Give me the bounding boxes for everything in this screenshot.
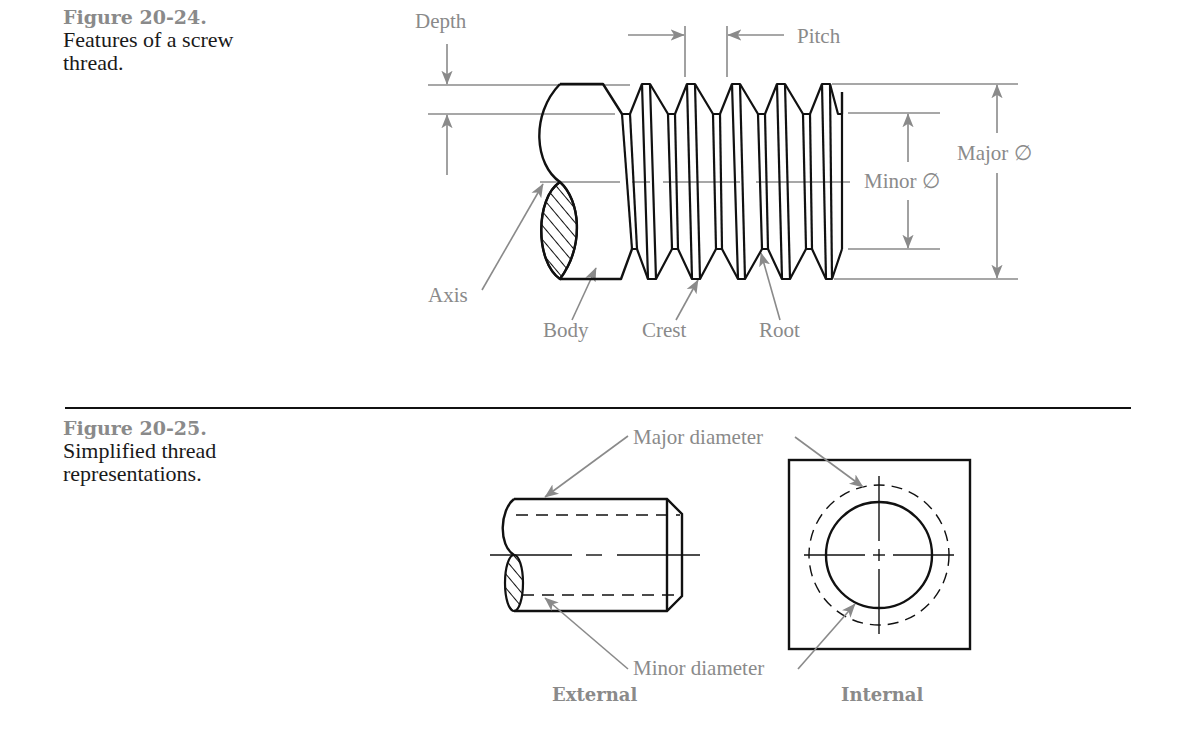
body-label: Body [543, 318, 589, 342]
minor-diameter-leader-internal [798, 604, 855, 669]
extension-lines [428, 26, 1018, 279]
simplified-thread-drawings: Major diameter Minor diameter External I… [490, 425, 970, 705]
crest-label: Crest [642, 318, 686, 342]
external-thread-drawing [490, 499, 700, 611]
major-diameter-label: Major ∅ [957, 141, 1032, 165]
axis-leader [482, 184, 543, 290]
minor-diameter-label: Minor diameter [633, 656, 764, 680]
hatched-section [541, 182, 577, 279]
depth-label: Depth [415, 9, 467, 33]
internal-thread-drawing [789, 460, 970, 649]
internal-label: Internal [841, 684, 924, 705]
major-diameter-label: Major diameter [633, 425, 763, 449]
minor-diameter-label: Minor ∅ [864, 169, 940, 193]
external-hatched-section [505, 555, 523, 611]
external-label: External [552, 684, 637, 705]
major-diameter-leader-external [545, 436, 628, 497]
crest-leader [676, 280, 698, 320]
axis-label: Axis [428, 283, 468, 307]
internal-centerlines [804, 476, 954, 634]
root-label: Root [759, 318, 800, 342]
major-diameter-leader-internal [795, 437, 863, 487]
minor-diameter-leader-external [545, 598, 628, 669]
root-leader [761, 253, 780, 320]
screw-thread-drawing: Depth Pitch Major ∅ Minor ∅ Axis Body Cr… [415, 9, 1032, 342]
body-leader [572, 268, 596, 320]
technical-drawings: Depth Pitch Major ∅ Minor ∅ Axis Body Cr… [0, 0, 1180, 748]
pitch-label: Pitch [797, 24, 841, 48]
